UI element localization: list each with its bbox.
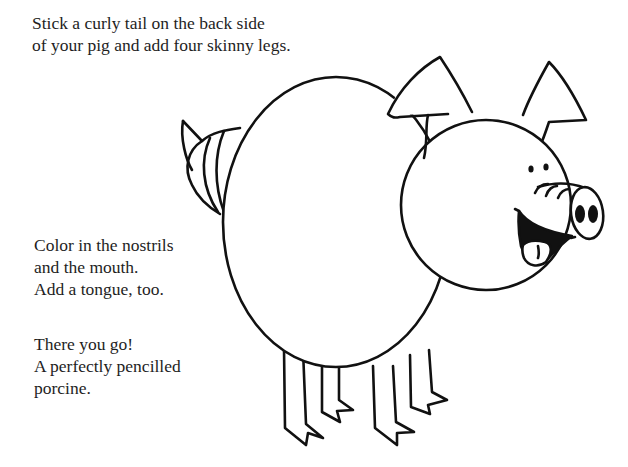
tongue [522,241,550,266]
left-ear [388,57,446,120]
nostril-right [588,205,598,223]
nostril-left [575,205,585,223]
leg-icon [410,350,447,414]
leg-icon [322,360,353,422]
leg-icon [373,366,414,445]
pig-illustration [0,0,628,467]
eye-right [543,163,548,170]
eye-left [528,165,533,172]
